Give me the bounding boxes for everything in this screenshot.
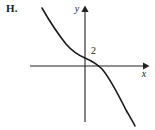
x-axis-label: x	[141, 68, 147, 79]
graph-plot: y x 2	[0, 0, 155, 130]
y-axis-label: y	[74, 3, 80, 14]
function-curve	[42, 8, 135, 126]
figure-container: H. y x 2	[0, 0, 155, 130]
y-intercept-label: 2	[91, 45, 96, 56]
y-axis-arrowhead	[81, 6, 88, 13]
